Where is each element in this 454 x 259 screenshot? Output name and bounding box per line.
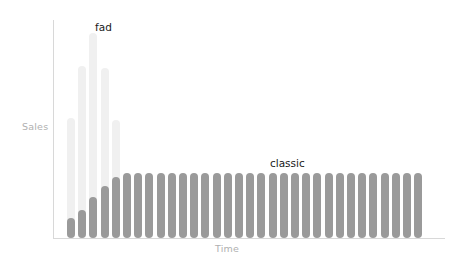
bar-classic-4 [112, 177, 120, 238]
bar-classic-22 [313, 173, 321, 238]
plot-area [0, 0, 454, 259]
bar-classic-14 [224, 173, 232, 238]
bar-classic-9 [168, 173, 176, 238]
bar-classic-21 [302, 173, 310, 238]
bar-classic-17 [257, 173, 265, 238]
x-axis-line [53, 238, 445, 239]
bar-classic-6 [134, 173, 142, 238]
bar-classic-23 [325, 173, 333, 238]
bar-classic-27 [369, 173, 377, 238]
bar-classic-13 [213, 173, 221, 238]
bar-classic-24 [336, 173, 344, 238]
fad-series-label: fad [95, 21, 112, 33]
bar-classic-19 [280, 173, 288, 238]
x-axis-title: Time [0, 243, 454, 254]
y-axis-line [53, 20, 54, 239]
bar-classic-29 [392, 173, 400, 238]
bar-classic-7 [145, 173, 153, 238]
bar-classic-18 [269, 173, 277, 238]
bar-classic-28 [381, 173, 389, 238]
bar-classic-10 [179, 173, 187, 238]
bar-classic-16 [246, 173, 254, 238]
y-axis-title: Sales [22, 121, 48, 132]
bar-classic-12 [201, 173, 209, 238]
bar-classic-11 [190, 173, 198, 238]
bar-classic-26 [358, 173, 366, 238]
bar-classic-20 [291, 173, 299, 238]
bar-classic-15 [235, 173, 243, 238]
bar-classic-31 [414, 173, 422, 238]
bar-classic-2 [89, 197, 97, 238]
bar-classic-8 [157, 173, 165, 238]
bar-classic-3 [101, 186, 109, 238]
bar-classic-0 [67, 218, 75, 238]
bar-classic-25 [347, 173, 355, 238]
classic-series-label: classic [270, 157, 305, 169]
bar-classic-30 [403, 173, 411, 238]
sales-over-time-bar-chart: Sales Time fad classic [0, 0, 454, 259]
bar-classic-1 [78, 210, 86, 238]
bar-classic-5 [123, 173, 131, 238]
